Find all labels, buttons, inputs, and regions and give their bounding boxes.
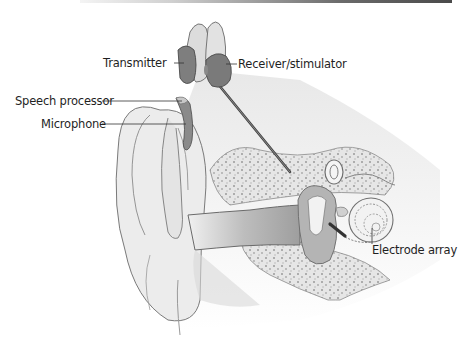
label-receiver-stimulator: Receiver/stimulator	[238, 57, 347, 71]
label-speech-processor: Speech processor	[15, 94, 114, 108]
label-transmitter: Transmitter	[103, 56, 166, 70]
cochlear-implant-illustration	[0, 0, 466, 346]
label-electrode-array: Electrode array	[372, 243, 457, 257]
label-microphone: Microphone	[41, 117, 106, 131]
receiver-stimulator-device	[204, 22, 231, 87]
